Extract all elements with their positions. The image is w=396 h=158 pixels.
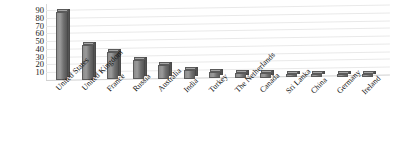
bar-column[interactable] [184,66,199,79]
bar-top-face [159,62,170,65]
bar-top-face [338,71,349,74]
bar[interactable] [56,12,67,80]
bar-top-face [312,71,323,74]
bar-front-face [362,74,373,77]
bar-top-face [210,69,221,72]
bar-column[interactable] [56,8,71,80]
bar-front-face [56,12,67,80]
bar-chart: 908070605040302010 United StatesUnited K… [0,0,396,158]
bar-top-face [83,42,94,45]
y-axis-tick-label: 10 [36,68,45,77]
bar-top-face [57,9,68,12]
bar-top-face [185,67,196,70]
bar[interactable] [362,74,373,77]
bar-top-face [236,70,247,73]
y-axis: 908070605040302010 [16,0,46,84]
bar-top-face [363,71,374,74]
bar-side-face [67,9,70,77]
bar-top-face [287,71,298,74]
bar-top-face [134,57,145,60]
